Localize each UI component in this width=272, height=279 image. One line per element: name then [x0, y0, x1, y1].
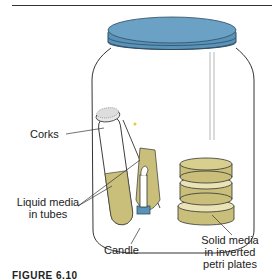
- label-liquid-media-line2: in tubes: [8, 208, 88, 220]
- label-solid-media-line1: Solid media: [194, 234, 266, 246]
- label-solid-media-line3: petri plates: [194, 258, 266, 270]
- label-solid-media: Solid media in inverted petri plates: [194, 234, 266, 270]
- label-solid-media-line2: in inverted: [194, 246, 266, 258]
- label-liquid-media: Liquid media in tubes: [8, 196, 88, 220]
- label-liquid-media-line1: Liquid media: [8, 196, 88, 208]
- figure-caption: FIGURE 6.10: [12, 270, 78, 279]
- label-candle: Candle: [104, 244, 139, 256]
- label-corks: Corks: [30, 128, 59, 140]
